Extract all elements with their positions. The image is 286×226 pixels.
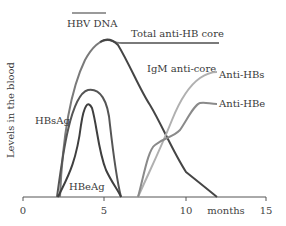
anti-hbe-label: Anti-HBe [218,98,265,109]
total-anti-hb-core-label: Total anti-HB core [131,28,224,39]
hbv-dna-label: HBV DNA [67,18,118,29]
serology-chart: Levels in the blood 0 5 10 15 months HBV… [0,0,286,226]
x-tick-label-15: 15 [260,205,273,216]
hbsag-label: HBsAg [35,115,70,126]
anti-hbe-curve [138,103,217,197]
anti-hbs-curve [138,72,217,197]
anti-hbs-label: Anti-HBs [218,69,264,80]
x-tick-label-5: 5 [101,205,107,216]
x-axis-unit: months [207,205,245,216]
hbeag-label: HBeAg [69,181,105,192]
x-tick-label-0: 0 [20,205,26,216]
igm-anti-core-label: IgM anti-core [147,63,216,74]
x-tick-label-10: 10 [180,205,193,216]
y-axis-label: Levels in the blood [5,61,16,158]
